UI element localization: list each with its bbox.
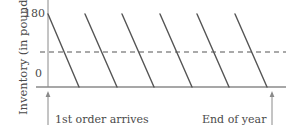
inventory-cycle-4	[160, 14, 192, 87]
annotation-first-order-arrives: 1st order arrives	[55, 114, 149, 125]
end-of-year-arrow-icon	[270, 91, 275, 125]
annotation-end-of-year: End of year	[202, 114, 266, 125]
inventory-cycle-1	[48, 14, 79, 87]
y-tick-label-180: 180	[24, 8, 45, 19]
inventory-cycle-2	[85, 14, 117, 87]
inventory-cycle-6	[235, 14, 267, 87]
inventory-line-series	[48, 14, 267, 87]
inventory-cycle-3	[122, 14, 154, 87]
inventory-cycle-5	[197, 14, 229, 87]
chart-figure: Inventory (in pounds) 180 0 1st order ar…	[0, 0, 291, 137]
y-axis-label-wrapper: Inventory (in pounds)	[0, 0, 22, 112]
first-order-arrow-icon	[46, 91, 51, 125]
y-tick-label-0: 0	[35, 68, 42, 79]
